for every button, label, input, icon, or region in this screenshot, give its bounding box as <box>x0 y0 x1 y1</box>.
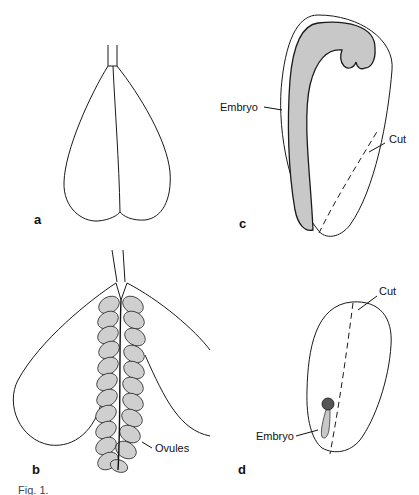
figure-caption: Fig. 1. <box>18 484 418 495</box>
panel-label-b: b <box>32 462 40 477</box>
panel-label-a: a <box>34 212 42 227</box>
ovules-pointer <box>142 442 152 448</box>
cut-c-pointer <box>369 143 385 152</box>
label-embryo-d: Embryo <box>256 430 294 442</box>
embryo-d-pointer <box>296 430 318 436</box>
embryo-c-pointer <box>264 107 282 110</box>
cut-d-pointer <box>358 296 377 310</box>
panel-label-d: d <box>238 462 246 477</box>
panel-c-seed-section <box>281 15 393 236</box>
label-cut-c: Cut <box>389 133 406 145</box>
label-ovules: Ovules <box>155 442 190 454</box>
panel-label-c: c <box>239 216 246 231</box>
panel-a-fruit-closed <box>64 45 170 221</box>
botanical-figure: a Ovules b <box>0 0 419 495</box>
label-cut-d: Cut <box>379 285 396 297</box>
label-embryo-c: Embryo <box>220 101 258 113</box>
panel-d-seed <box>307 302 391 454</box>
